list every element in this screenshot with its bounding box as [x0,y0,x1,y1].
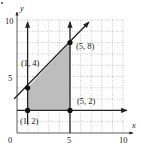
axes [17,12,133,133]
corner-dot [1,2,3,4]
y-axis-label: y [19,3,24,13]
point-1-2 [25,108,30,113]
label-point-5-8: (5, 8) [76,41,95,51]
tick-x-5: 5 [67,135,71,145]
point-5-2 [67,108,72,113]
x-axis-label: x [131,120,136,130]
tick-y-10: 10 [5,16,14,26]
point-1-4 [25,85,30,90]
tick-x-10: 10 [119,135,128,145]
tick-x-0: 0 [8,135,12,145]
point-5-8 [67,40,72,45]
label-point-5-2: (5, 2) [77,96,96,106]
feasible-region-graph: (1, 4) (5, 8) (5, 2) (1, 2) 0 5 10 5 10 … [0,0,141,151]
tick-y-5: 5 [8,73,12,83]
label-point-1-4: (1, 4) [21,58,40,68]
label-point-1-2: (1, 2) [20,116,39,126]
